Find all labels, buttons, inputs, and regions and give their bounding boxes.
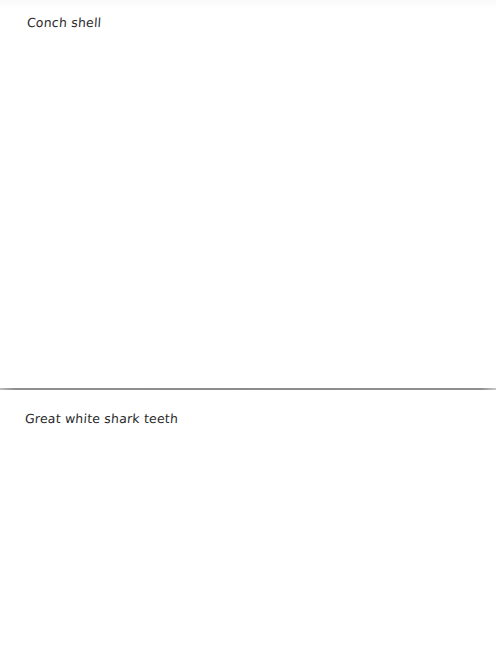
section-shark-teeth: Great white shark teeth	[0, 390, 496, 650]
section-label: Conch shell	[26, 15, 101, 30]
section-label: Great white shark teeth	[24, 411, 178, 426]
document-page: Conch shell Great white shark teeth	[0, 0, 496, 650]
section-conch-shell: Conch shell	[0, 0, 496, 388]
